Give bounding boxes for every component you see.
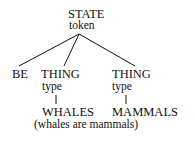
child-thing1-label: THING: [41, 68, 80, 81]
child-thing2-label: THING: [112, 68, 151, 81]
child-thing2-sub: type: [112, 81, 132, 93]
caption: (whales are mammals): [34, 119, 138, 131]
leaf-mammals: MAMMALS: [112, 106, 178, 119]
child-be-label: BE: [12, 68, 28, 81]
root-node-sub: token: [69, 20, 95, 32]
child-thing1-sub: type: [42, 81, 62, 93]
leaf-whales: WHALES: [42, 106, 94, 119]
